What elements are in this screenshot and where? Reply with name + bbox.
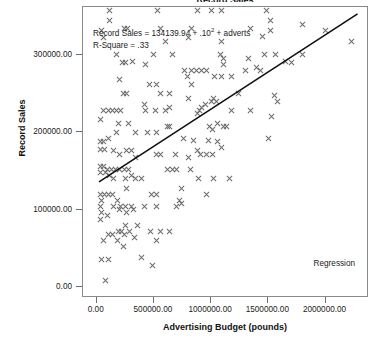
x-axis-tick [210, 297, 211, 303]
equation-line: Record Sales = 134139.94 + .102 + advert… [93, 28, 250, 40]
y-axis-title: Record Sales [17, 68, 27, 188]
x-axis-tick-label: 0.00 [88, 305, 104, 314]
x-axis-tick [267, 297, 268, 303]
y-axis-tick-label: 0.00 [56, 282, 72, 291]
equation-tail: + adverts [214, 29, 250, 38]
regression-equation-annotation: Record Sales = 134139.94 + .102 + advert… [93, 28, 250, 51]
y-axis-tick-label: 100000.00 [33, 204, 72, 213]
plot-area: Record Sales = 134139.94 + .102 + advert… [82, 6, 368, 297]
regression-legend-label: Regression [314, 259, 355, 268]
y-axis-tick-label: 200000.00 [33, 127, 72, 136]
equation-text: Record Sales = 134139.94 + .10 [93, 29, 211, 38]
x-axis-tick-label: 1000000.00 [188, 305, 231, 314]
chart-title: Record Sales [82, 0, 368, 2]
scatter-plot-figure: Record Sales Record Sales 0.00100000.002… [0, 0, 380, 340]
y-axis-tick-label: 300000.00 [33, 49, 72, 58]
x-axis-tick [96, 297, 97, 303]
x-axis-tick [325, 297, 326, 303]
r-square-line: R-Square = .33 [93, 40, 250, 52]
x-axis-tick-label: 1500000.00 [246, 305, 289, 314]
x-axis-title: Advertising Budget (pounds) [82, 322, 368, 332]
x-axis-tick-label: 500000.00 [134, 305, 173, 314]
x-axis-tick [153, 297, 154, 303]
x-axis-tick-label: 2000000.00 [303, 305, 346, 314]
